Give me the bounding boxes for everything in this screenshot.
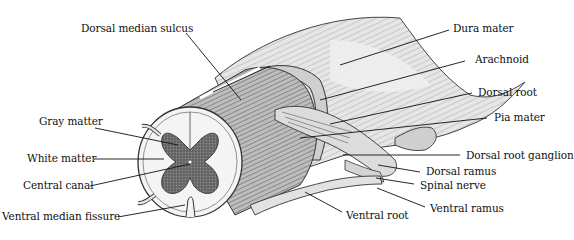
label-dorsal-median-sulcus: Dorsal median sulcus: [81, 22, 193, 34]
label-ventral-root: Ventral root: [346, 209, 408, 221]
cross-section: [138, 107, 242, 217]
label-spinal-nerve: Spinal nerve: [420, 179, 486, 191]
label-white-matter: White matter: [27, 152, 96, 164]
label-dorsal-root: Dorsal root: [478, 86, 537, 98]
label-arachnoid: Arachnoid: [475, 53, 529, 65]
label-dorsal-ramus: Dorsal ramus: [426, 165, 496, 177]
label-pia-mater: Pia mater: [494, 111, 545, 123]
label-ventral-median-fissure: Ventral median fissure: [2, 210, 120, 222]
label-dorsal-root-ganglion: Dorsal root ganglion: [466, 149, 574, 161]
label-central-canal: Central canal: [23, 179, 93, 191]
central-canal-dot: [189, 161, 192, 164]
label-dura-mater: Dura mater: [453, 22, 513, 34]
spinal-cord-diagram: Dorsal median sulcus Dura mater Arachnoi…: [0, 0, 574, 240]
label-ventral-ramus: Ventral ramus: [430, 202, 504, 214]
label-gray-matter: Gray matter: [39, 115, 103, 127]
